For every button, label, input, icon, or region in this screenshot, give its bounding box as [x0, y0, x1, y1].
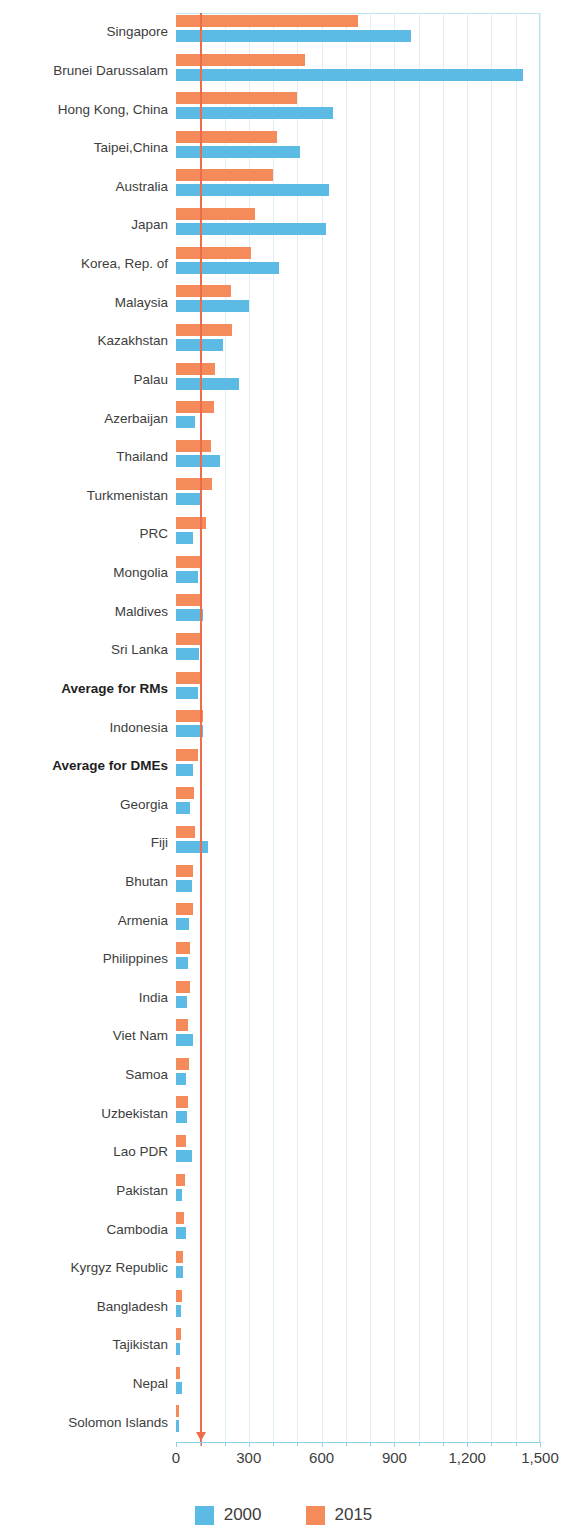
bar-2015[interactable]: [176, 1367, 180, 1379]
bar-2015[interactable]: [176, 363, 215, 375]
bar-2015[interactable]: [176, 865, 193, 877]
bar-2000[interactable]: [176, 1305, 181, 1317]
bar-row: [176, 708, 540, 747]
bar-row: [176, 52, 540, 91]
bar-2000[interactable]: [176, 69, 523, 81]
bar-2000[interactable]: [176, 918, 189, 930]
bar-2015[interactable]: [176, 208, 255, 220]
bar-2000[interactable]: [176, 223, 326, 235]
bar-2015[interactable]: [176, 826, 195, 838]
bar-row: [176, 361, 540, 400]
bar-2015[interactable]: [176, 1174, 185, 1186]
x-tick-major: [467, 1442, 468, 1447]
bar-2015[interactable]: [176, 594, 202, 606]
bar-2015[interactable]: [176, 15, 358, 27]
bar-2000[interactable]: [176, 1343, 180, 1355]
bar-row: [176, 592, 540, 631]
bar-row: [176, 206, 540, 245]
bar-2015[interactable]: [176, 324, 232, 336]
bar-2015[interactable]: [176, 1096, 188, 1108]
bar-2000[interactable]: [176, 841, 208, 853]
category-label: Nepal: [0, 1377, 168, 1391]
bar-row: [176, 476, 540, 515]
bar-2015[interactable]: [176, 285, 231, 297]
x-axis-tick-label: 1,200: [448, 1449, 486, 1466]
bar-2015[interactable]: [176, 1058, 189, 1070]
x-tick-minor: [443, 1442, 444, 1446]
bar-2000[interactable]: [176, 455, 220, 467]
bar-2015[interactable]: [176, 478, 212, 490]
bar-2000[interactable]: [176, 1150, 192, 1162]
bar-2015[interactable]: [176, 1328, 181, 1340]
category-label: Indonesia: [0, 721, 168, 735]
bar-2015[interactable]: [176, 1135, 186, 1147]
bar-2015[interactable]: [176, 1019, 188, 1031]
bar-2015[interactable]: [176, 131, 277, 143]
bar-2015[interactable]: [176, 1251, 183, 1263]
bar-row: [176, 1288, 540, 1327]
bar-2015[interactable]: [176, 169, 273, 181]
bar-2000[interactable]: [176, 378, 239, 390]
bar-2000[interactable]: [176, 687, 198, 699]
bar-2015[interactable]: [176, 942, 190, 954]
bar-row: [176, 785, 540, 824]
bar-row: [176, 631, 540, 670]
bar-2000[interactable]: [176, 300, 249, 312]
bar-2000[interactable]: [176, 571, 198, 583]
bar-2000[interactable]: [176, 1227, 186, 1239]
bar-2015[interactable]: [176, 903, 193, 915]
bar-2015[interactable]: [176, 710, 203, 722]
category-label: Lao PDR: [0, 1145, 168, 1159]
bar-2015[interactable]: [176, 787, 194, 799]
bar-2000[interactable]: [176, 1266, 183, 1278]
bar-row: [176, 1133, 540, 1172]
category-label: Philippines: [0, 952, 168, 966]
bar-2000[interactable]: [176, 996, 187, 1008]
legend-item-2015[interactable]: 2015: [306, 1505, 373, 1525]
bar-2015[interactable]: [176, 92, 297, 104]
bar-rows: [176, 13, 540, 1442]
bar-2000[interactable]: [176, 764, 193, 776]
bar-2000[interactable]: [176, 493, 201, 505]
bar-row: [176, 1172, 540, 1211]
bar-2000[interactable]: [176, 184, 329, 196]
x-tick-minor: [346, 1442, 347, 1446]
bar-2015[interactable]: [176, 556, 202, 568]
category-label: Average for RMs: [0, 682, 168, 696]
bar-2000[interactable]: [176, 416, 195, 428]
bar-2000[interactable]: [176, 1034, 193, 1046]
bar-2015[interactable]: [176, 247, 251, 259]
bar-2015[interactable]: [176, 1405, 179, 1417]
category-label: Pakistan: [0, 1184, 168, 1198]
bar-row: [176, 1403, 540, 1442]
bar-2015[interactable]: [176, 54, 305, 66]
x-tick-minor: [419, 1442, 420, 1446]
bar-2015[interactable]: [176, 401, 214, 413]
bar-2015[interactable]: [176, 672, 201, 684]
bar-2000[interactable]: [176, 1382, 182, 1394]
x-tick-minor: [370, 1442, 371, 1446]
category-label: Bangladesh: [0, 1300, 168, 1314]
bar-2000[interactable]: [176, 648, 199, 660]
bar-2000[interactable]: [176, 802, 190, 814]
bar-row: [176, 283, 540, 322]
bar-2000[interactable]: [176, 1420, 179, 1432]
bar-2015[interactable]: [176, 1212, 184, 1224]
bar-2015[interactable]: [176, 633, 201, 645]
bar-2000[interactable]: [176, 880, 192, 892]
bar-2000[interactable]: [176, 1111, 187, 1123]
bar-2000[interactable]: [176, 1073, 186, 1085]
bar-2000[interactable]: [176, 146, 300, 158]
bar-2000[interactable]: [176, 1189, 182, 1201]
category-label: Azerbaijan: [0, 412, 168, 426]
bar-2015[interactable]: [176, 1290, 182, 1302]
legend-item-2000[interactable]: 2000: [195, 1505, 262, 1525]
bar-2000[interactable]: [176, 30, 411, 42]
bar-2015[interactable]: [176, 440, 211, 452]
bar-2015[interactable]: [176, 981, 190, 993]
bar-2000[interactable]: [176, 262, 279, 274]
bar-2000[interactable]: [176, 957, 188, 969]
bar-2000[interactable]: [176, 532, 193, 544]
bar-row: [176, 863, 540, 902]
bar-2015[interactable]: [176, 749, 198, 761]
